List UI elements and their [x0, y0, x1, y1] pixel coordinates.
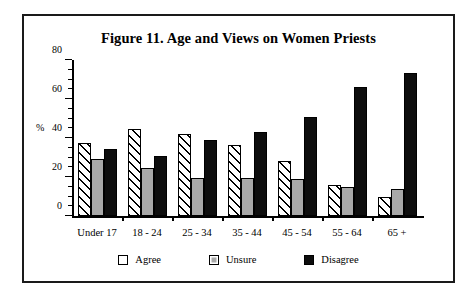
y-tick-label: 60: [52, 83, 62, 94]
bar-unsure[interactable]: [91, 159, 104, 216]
bar-group: 18 - 24: [122, 60, 172, 216]
chart-title: Figure 11. Age and Views on Women Priest…: [24, 30, 453, 47]
y-tick-label: 40: [52, 122, 62, 133]
y-tick-major: [65, 59, 72, 61]
x-tick-label: 35 - 44: [232, 227, 262, 238]
legend-label: Disagree: [321, 254, 358, 265]
bar-disagree[interactable]: [304, 117, 317, 216]
bar-group: Under 17: [72, 60, 122, 216]
bar-unsure[interactable]: [191, 178, 204, 216]
x-tick-mark: [122, 216, 124, 221]
x-tick-mark: [222, 216, 224, 221]
y-tick-major: [65, 137, 72, 139]
x-tick-mark: [322, 216, 324, 221]
x-tick-label: 55 - 64: [332, 227, 362, 238]
bar-agree[interactable]: [228, 145, 241, 216]
legend-swatch-agree-icon: [118, 255, 128, 265]
bar-agree[interactable]: [78, 143, 91, 216]
figure-frame: Figure 11. Age and Views on Women Priest…: [22, 14, 455, 283]
bar-unsure[interactable]: [241, 178, 254, 216]
bar-agree[interactable]: [278, 161, 291, 216]
y-axis-title: %: [36, 122, 44, 133]
x-tick-label: 18 - 24: [132, 227, 162, 238]
x-tick-mark: [272, 216, 274, 221]
bar-disagree[interactable]: [354, 87, 367, 216]
legend-label: Agree: [135, 254, 161, 265]
y-tick-major: [65, 176, 72, 178]
bar-unsure[interactable]: [141, 168, 154, 216]
bar-agree[interactable]: [378, 197, 391, 216]
bar-agree[interactable]: [128, 129, 141, 216]
legend-label: Unsure: [226, 254, 256, 265]
bar-disagree[interactable]: [154, 156, 167, 216]
bar-group: 55 - 64: [322, 60, 372, 216]
x-tick-label: 25 - 34: [182, 227, 212, 238]
legend-item[interactable]: Unsure: [209, 254, 256, 265]
y-tick-label: 0: [57, 200, 62, 211]
bar-disagree[interactable]: [254, 132, 267, 216]
chart-legend: AgreeUnsureDisagree: [24, 254, 453, 265]
bar-unsure[interactable]: [391, 189, 404, 216]
bar-groups: Under 1718 - 2425 - 3435 - 4445 - 5455 -…: [72, 60, 422, 216]
bar-unsure[interactable]: [291, 179, 304, 216]
bar-group: 65 +: [372, 60, 422, 216]
legend-swatch-disagree-icon: [304, 255, 314, 265]
bar-disagree[interactable]: [404, 73, 417, 216]
legend-item[interactable]: Agree: [118, 254, 161, 265]
legend-swatch-unsure-icon: [209, 255, 219, 265]
y-tick-major: [65, 215, 72, 217]
bar-agree[interactable]: [178, 134, 191, 216]
bar-agree[interactable]: [328, 185, 341, 216]
x-tick-mark: [372, 216, 374, 221]
bar-group: 25 - 34: [172, 60, 222, 216]
bar-disagree[interactable]: [104, 149, 117, 216]
bar-disagree[interactable]: [204, 140, 217, 216]
y-tick-label: 80: [52, 44, 62, 55]
y-tick-major: [65, 98, 72, 100]
x-tick-label: 45 - 54: [282, 227, 312, 238]
plot-area: % 020406080 Under 1718 - 2425 - 3435 - 4…: [72, 60, 422, 216]
y-tick-label: 20: [52, 161, 62, 172]
bar-group: 45 - 54: [272, 60, 322, 216]
bar-group: 35 - 44: [222, 60, 272, 216]
x-tick-label: 65 +: [387, 227, 406, 238]
x-tick-mark: [172, 216, 174, 221]
bar-unsure[interactable]: [341, 187, 354, 216]
x-tick-label: Under 17: [77, 227, 116, 238]
legend-item[interactable]: Disagree: [304, 254, 358, 265]
